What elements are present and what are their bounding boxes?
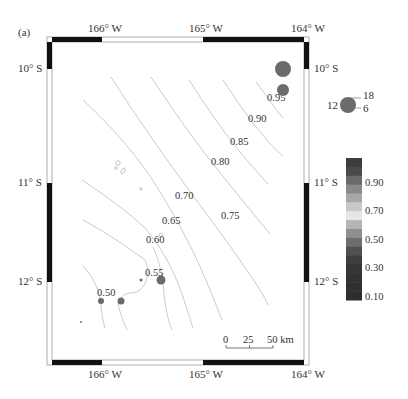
colorbar-cell [346,291,362,300]
size-legend-label: 18 [363,89,375,101]
x-tick-label: 164° W [291,368,325,380]
seismic-map: (a) 166° W 165° W 164° W 166° W 165° W 1… [0,0,408,399]
colorbar-cell [346,282,362,291]
contour-label: 0.65 [162,215,180,226]
colorbar-cell [346,185,362,194]
y-tick-label: 10° S [314,62,338,74]
colorbar-cell [346,256,362,265]
colorbar-tick: 0.50 [365,234,383,245]
x-tick-label: 164° W [291,22,325,34]
colorbar-cell [346,229,362,238]
x-tick-label: 165° W [189,22,223,34]
event-marker [80,321,82,323]
contour-label: 0.60 [146,234,164,245]
contour-label: 0.50 [97,287,115,298]
y-tick-label: 12° S [314,275,338,287]
scale-bar-label: 0 [223,334,228,345]
panel-label: (a) [18,26,31,39]
y-axis-left-labels: 10° S 11° S 12° S [18,62,42,287]
colorbar-tick: 0.70 [365,205,383,216]
event-marker [98,298,104,304]
contour-label: 0.80 [211,156,229,167]
x-tick-label: 166° W [88,368,122,380]
colorbar-cell [346,220,362,229]
colorbar-cell [346,158,362,167]
size-legend-label: 6 [363,102,369,114]
colorbar-cell [346,238,362,247]
event-marker [157,276,166,285]
y-tick-label: 10° S [18,62,42,74]
map-frame [47,37,309,365]
x-axis-bottom-labels: 166° W 165° W 164° W [88,368,325,380]
y-tick-label: 11° S [18,176,42,188]
size-legend: 12 18 6 [327,89,375,114]
colorbar: 0.90 0.70 0.50 0.30 0.10 [346,158,383,302]
scale-bar-label: 25 [243,334,254,345]
colorbar-cell [346,247,362,256]
x-tick-label: 166° W [88,22,122,34]
colorbar-cell [346,265,362,274]
event-marker [277,84,289,96]
event-marker [140,279,143,282]
y-axis-right-labels: 10° S 11° S 12° S [314,62,338,287]
x-axis-top-labels: 166° W 165° W 164° W [88,22,325,34]
event-marker [118,298,125,305]
contour-label: 0.90 [248,113,266,124]
colorbar-tick: 0.10 [365,291,383,302]
colorbar-tick: 0.30 [365,262,383,273]
colorbar-cell [346,176,362,185]
colorbar-tick: 0.90 [365,177,383,188]
y-tick-label: 11° S [314,176,338,188]
y-tick-label: 12° S [18,275,42,287]
x-tick-label: 165° W [189,368,223,380]
colorbar-cell [346,202,362,211]
contour-label: 0.70 [175,190,193,201]
contour-label: 0.85 [230,136,248,147]
contour-label: 0.75 [221,210,239,221]
scale-bar-label: 50 km [267,334,294,345]
size-legend-label: 12 [327,99,338,111]
colorbar-cell [346,273,362,282]
colorbar-cell [346,211,362,220]
colorbar-cell [346,167,362,176]
event-marker [275,61,291,77]
colorbar-cell [346,194,362,203]
